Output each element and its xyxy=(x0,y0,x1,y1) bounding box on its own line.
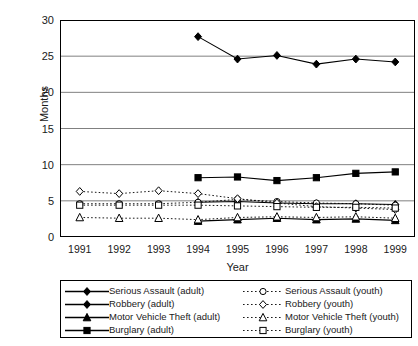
data-point xyxy=(84,301,91,309)
legend-marker-icon xyxy=(241,323,285,336)
y-axis-title: Months xyxy=(38,59,50,149)
data-point xyxy=(195,190,202,198)
data-point xyxy=(392,205,398,211)
legend-item[interactable]: Motor Vehicle Theft (adult) xyxy=(65,310,243,323)
y-axis-tick-label: 30 xyxy=(18,15,54,25)
data-point xyxy=(353,170,359,176)
series-motor-vehicle-theft-adult xyxy=(194,214,399,224)
data-point xyxy=(194,216,202,223)
data-point xyxy=(234,203,240,209)
data-point xyxy=(195,202,201,208)
data-point xyxy=(273,213,281,220)
y-axis-tick-label: 0 xyxy=(18,232,54,242)
x-axis-tick-label: 1999 xyxy=(375,243,415,255)
legend-item[interactable]: Serious Assault (adult) xyxy=(65,284,243,297)
data-point xyxy=(84,327,90,333)
data-point xyxy=(76,213,84,220)
legend-column-youth: Serious Assault (youth)Robbery (youth)Mo… xyxy=(241,284,411,336)
legend-item[interactable]: Serious Assault (youth) xyxy=(241,284,411,297)
legend-marker-icon xyxy=(241,310,285,323)
data-point xyxy=(76,188,83,196)
legend-item[interactable]: Burglary (youth) xyxy=(241,323,411,336)
x-axis-tick-label: 1991 xyxy=(60,243,100,255)
data-point xyxy=(260,288,266,294)
legend-marker-icon xyxy=(241,297,285,310)
legend-marker-icon xyxy=(65,284,109,297)
data-point xyxy=(392,58,399,66)
plot-area xyxy=(60,20,415,237)
series-line xyxy=(198,37,395,64)
series-burglary-adult xyxy=(195,169,398,184)
legend-label: Serious Assault (adult) xyxy=(109,284,204,297)
x-axis-tick-labels: 199119921993199419951996199719981999 xyxy=(60,243,415,259)
data-point xyxy=(313,175,319,181)
legend-key xyxy=(241,324,285,337)
chart-canvas xyxy=(60,20,415,237)
chart-legend: Serious Assault (adult)Robbery (adult)Mo… xyxy=(60,280,412,338)
data-point xyxy=(352,213,360,220)
y-axis-tick-label: 5 xyxy=(18,196,54,206)
legend-item[interactable]: Motor Vehicle Theft (youth) xyxy=(241,310,411,323)
data-point xyxy=(155,187,162,195)
data-point xyxy=(77,202,83,208)
x-axis-tick-label: 1996 xyxy=(257,243,297,255)
data-point xyxy=(392,169,398,175)
x-axis-tick-label: 1993 xyxy=(139,243,179,255)
x-axis-title: Year xyxy=(60,261,415,273)
x-axis-tick-label: 1994 xyxy=(178,243,218,255)
legend-item[interactable]: Robbery (adult) xyxy=(65,297,243,310)
chart-figure: 051015202530 Months 19911992199319941995… xyxy=(0,0,418,346)
legend-marker-icon xyxy=(241,284,285,297)
x-axis-tick-label: 1995 xyxy=(218,243,258,255)
data-point xyxy=(195,175,201,181)
series-serious-assault-adult xyxy=(195,33,399,68)
legend-label: Serious Assault (youth) xyxy=(285,284,383,297)
legend-label: Robbery (youth) xyxy=(285,297,353,310)
legend-label: Burglary (adult) xyxy=(109,323,174,336)
data-point xyxy=(116,190,123,198)
data-point xyxy=(195,33,202,41)
data-point xyxy=(260,327,266,333)
x-axis-tick-label: 1997 xyxy=(296,243,336,255)
series-line xyxy=(198,172,395,181)
data-point xyxy=(353,204,359,210)
legend-marker-icon xyxy=(65,323,109,336)
x-axis-tick-label: 1992 xyxy=(99,243,139,255)
data-point xyxy=(156,202,162,208)
legend-label: Robbery (adult) xyxy=(109,297,174,310)
series-line xyxy=(198,218,395,221)
data-point xyxy=(116,202,122,208)
legend-marker-icon xyxy=(65,297,109,310)
legend-label: Motor Vehicle Theft (adult) xyxy=(109,310,220,323)
data-point xyxy=(234,174,240,180)
legend-item[interactable]: Burglary (adult) xyxy=(65,323,243,336)
y-axis-tick-label: 10 xyxy=(18,160,54,170)
legend-label: Burglary (youth) xyxy=(285,323,353,336)
legend-key xyxy=(65,324,109,337)
data-point xyxy=(274,177,280,183)
legend-column-adult: Serious Assault (adult)Robbery (adult)Mo… xyxy=(65,284,243,336)
legend-marker-icon xyxy=(65,310,109,323)
legend-item[interactable]: Robbery (youth) xyxy=(241,297,411,310)
data-point xyxy=(274,204,280,210)
x-axis-tick-label: 1998 xyxy=(336,243,376,255)
data-point xyxy=(273,52,280,60)
data-point xyxy=(313,204,319,210)
data-point xyxy=(260,301,267,309)
data-point xyxy=(84,288,91,296)
legend-label: Motor Vehicle Theft (youth) xyxy=(285,310,399,323)
data-point xyxy=(313,60,320,68)
